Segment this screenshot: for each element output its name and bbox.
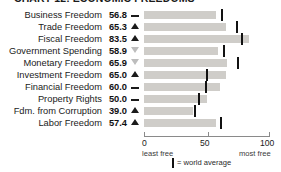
score-bar: [144, 23, 226, 31]
axis-tick-100: 100: [260, 138, 274, 148]
row-score-value: 56.8: [106, 9, 127, 21]
score-bar: [144, 119, 216, 127]
table-row: Government Spending58.9: [0, 45, 281, 57]
world-average-tick: [205, 81, 207, 93]
row-trend-indicator: [127, 33, 142, 45]
world-average-tick: [236, 21, 238, 33]
row-score-value: 57.4: [106, 117, 127, 129]
score-bar: [144, 59, 227, 67]
row-label: Government Spending: [0, 45, 106, 57]
axis-tick-50: 50: [200, 138, 210, 148]
row-score-value: 65.3: [106, 21, 127, 33]
score-bar: [144, 11, 216, 19]
world-average-tick: [198, 93, 200, 105]
page-title: CHART 12: ECONOMIC FREEDOMS: [14, 0, 274, 4]
row-score-value: 65.0: [106, 69, 127, 81]
world-average-tick: [194, 105, 196, 117]
trend-down-icon: [131, 59, 139, 65]
row-label: Fdm. from Corruption: [0, 105, 106, 117]
trend-up-icon: [131, 35, 139, 41]
score-bar: [144, 71, 226, 79]
row-label: Financial Freedom: [0, 81, 106, 93]
axis-caption-least-free: least free: [142, 149, 173, 159]
score-bar: [144, 107, 193, 115]
world-average-tick: [223, 45, 225, 57]
economic-freedoms-chart: CHART 12: ECONOMIC FREEDOMS Business Fre…: [0, 0, 281, 172]
score-bar: [144, 83, 220, 91]
score-bar: [144, 35, 249, 43]
trend-flat-icon: [131, 99, 139, 101]
row-plot-area: [144, 45, 270, 57]
table-row: Fdm. from Corruption39.0: [0, 105, 281, 117]
table-row: Trade Freedom65.3: [0, 21, 281, 33]
row-plot-area: [144, 9, 270, 21]
world-average-tick: [237, 57, 239, 69]
row-trend-indicator: [127, 57, 142, 69]
row-plot-area: [144, 105, 270, 117]
row-trend-indicator: [127, 69, 142, 81]
table-row: Business Freedom56.8: [0, 9, 281, 21]
table-row: Investment Freedom65.0: [0, 69, 281, 81]
world-average-tick-icon: [172, 158, 174, 168]
row-trend-indicator: [127, 93, 142, 105]
legend-label: = world average: [177, 158, 231, 168]
row-label: Monetary Freedom: [0, 57, 106, 69]
trend-up-icon: [131, 119, 139, 125]
row-score-value: 50.0: [106, 93, 127, 105]
row-score-value: 39.0: [106, 105, 127, 117]
chart-legend: = world average: [172, 158, 231, 168]
table-row: Property Rights50.0: [0, 93, 281, 105]
row-label: Labor Freedom: [0, 117, 106, 129]
trend-up-icon: [131, 71, 139, 77]
row-label: Business Freedom: [0, 9, 106, 21]
trend-flat-icon: [131, 87, 139, 89]
row-label: Fiscal Freedom: [0, 33, 106, 45]
row-trend-indicator: [127, 117, 142, 129]
row-trend-indicator: [127, 81, 142, 93]
table-row: Monetary Freedom65.9: [0, 57, 281, 69]
row-label: Investment Freedom: [0, 69, 106, 81]
table-row: Labor Freedom57.4: [0, 117, 281, 129]
row-score-value: 65.9: [106, 57, 127, 69]
x-axis: [144, 132, 270, 137]
freedom-rows: Business Freedom56.8Trade Freedom65.3Fis…: [0, 9, 281, 129]
world-average-tick: [220, 117, 222, 129]
row-score-value: 58.9: [106, 45, 127, 57]
row-plot-area: [144, 117, 270, 129]
world-average-tick: [206, 69, 208, 81]
axis-tick-0: 0: [142, 138, 147, 148]
row-trend-indicator: [127, 21, 142, 33]
row-trend-indicator: [127, 9, 142, 21]
trend-up-icon: [131, 23, 139, 29]
row-plot-area: [144, 57, 270, 69]
row-plot-area: [144, 81, 270, 93]
row-score-value: 83.5: [106, 33, 127, 45]
table-row: Financial Freedom60.0: [0, 81, 281, 93]
row-trend-indicator: [127, 45, 142, 57]
table-row: Fiscal Freedom83.5: [0, 33, 281, 45]
chart-title-clip: CHART 12: ECONOMIC FREEDOMS: [14, 0, 274, 4]
axis-tick-labels: 0 50 100: [138, 138, 281, 149]
axis-midpoint-tick: [208, 132, 209, 137]
row-plot-area: [144, 21, 270, 33]
world-average-tick: [221, 9, 223, 21]
world-average-tick: [241, 33, 243, 45]
row-score-value: 60.0: [106, 81, 127, 93]
axis-caption-most-free: most free: [239, 149, 271, 159]
trend-up-icon: [131, 107, 139, 113]
row-trend-indicator: [127, 105, 142, 117]
score-bar: [144, 47, 218, 55]
row-label: Property Rights: [0, 93, 106, 105]
trend-flat-icon: [131, 15, 139, 17]
row-plot-area: [144, 69, 270, 81]
trend-down-icon: [131, 47, 139, 53]
row-plot-area: [144, 33, 270, 45]
row-plot-area: [144, 93, 270, 105]
row-label: Trade Freedom: [0, 21, 106, 33]
